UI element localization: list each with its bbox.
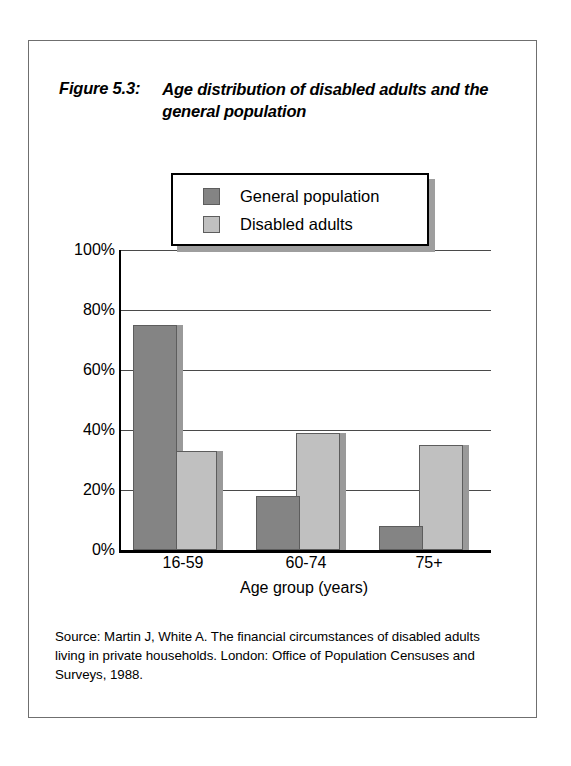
legend-item-general-population[interactable]: General population bbox=[203, 182, 427, 210]
y-tick-100: 100% bbox=[74, 241, 115, 259]
source-note: Source: Martin J, White A. The financial… bbox=[55, 628, 505, 685]
y-axis-tick-labels: 100% 80% 60% 40% 20% 0% bbox=[57, 250, 115, 550]
x-tick-60-74: 60-74 bbox=[286, 554, 327, 572]
bar-group-75-plus bbox=[379, 250, 483, 550]
x-tick-75-plus: 75+ bbox=[415, 554, 442, 572]
plot-inner bbox=[121, 250, 491, 550]
bar-disabled-adults-60-74[interactable] bbox=[296, 433, 340, 550]
legend-label-disabled-adults: Disabled adults bbox=[240, 215, 353, 234]
plot-area bbox=[119, 250, 491, 553]
y-tick-0: 0% bbox=[92, 541, 115, 559]
bar-group-60-74 bbox=[256, 250, 360, 550]
x-tick-16-59: 16-59 bbox=[163, 554, 204, 572]
y-tick-40: 40% bbox=[83, 421, 115, 439]
legend-swatch-general-population bbox=[203, 188, 220, 205]
y-tick-20: 20% bbox=[83, 481, 115, 499]
legend: General population Disabled adults bbox=[171, 173, 429, 246]
legend-swatch-disabled-adults bbox=[203, 216, 220, 233]
figure-title-text: Age distribution of disabled adults and … bbox=[162, 79, 499, 123]
legend-label-general-population: General population bbox=[240, 187, 379, 206]
bar-disabled-adults-16-59[interactable] bbox=[173, 451, 217, 550]
x-axis-title: Age group (years) bbox=[119, 579, 489, 597]
bar-general-population-75-plus[interactable] bbox=[379, 526, 423, 550]
figure-title: Figure 5.3: Age distribution of disabled… bbox=[59, 79, 499, 123]
y-tick-60: 60% bbox=[83, 361, 115, 379]
bar-general-population-16-59[interactable] bbox=[133, 325, 177, 550]
figure-frame: Figure 5.3: Age distribution of disabled… bbox=[28, 40, 537, 718]
figure-number: Figure 5.3: bbox=[59, 79, 140, 98]
x-axis-tick-labels: 16-59 60-74 75+ bbox=[119, 554, 489, 578]
bar-general-population-60-74[interactable] bbox=[256, 496, 300, 550]
legend-item-disabled-adults[interactable]: Disabled adults bbox=[203, 210, 427, 238]
bar-disabled-adults-75-plus[interactable] bbox=[419, 445, 463, 550]
bar-group-16-59 bbox=[133, 250, 237, 550]
y-tick-80: 80% bbox=[83, 301, 115, 319]
